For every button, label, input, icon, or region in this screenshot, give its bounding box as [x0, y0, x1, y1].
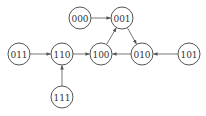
node-011: 011: [8, 43, 30, 65]
node-110: 110: [51, 43, 73, 65]
node-label: 000: [71, 14, 88, 24]
node-label: 001: [113, 14, 130, 24]
nodes-layer: 000001011110100010101111: [8, 7, 200, 108]
node-001: 001: [111, 7, 133, 29]
graph-svg: 000001011110100010101111: [0, 0, 206, 116]
state-diagram: 000001011110100010101111: [0, 0, 206, 116]
node-label: 111: [53, 93, 70, 103]
node-000: 000: [69, 7, 91, 29]
node-label: 100: [92, 50, 109, 60]
edge-001-to-010: [127, 28, 136, 44]
edge-100-to-001: [107, 28, 117, 45]
node-label: 110: [53, 50, 70, 60]
node-111: 111: [51, 86, 73, 108]
node-label: 101: [180, 50, 197, 60]
node-101: 101: [178, 43, 200, 65]
node-100: 100: [90, 43, 112, 65]
node-label: 011: [10, 50, 27, 60]
node-label: 010: [133, 50, 150, 60]
node-010: 010: [131, 43, 153, 65]
